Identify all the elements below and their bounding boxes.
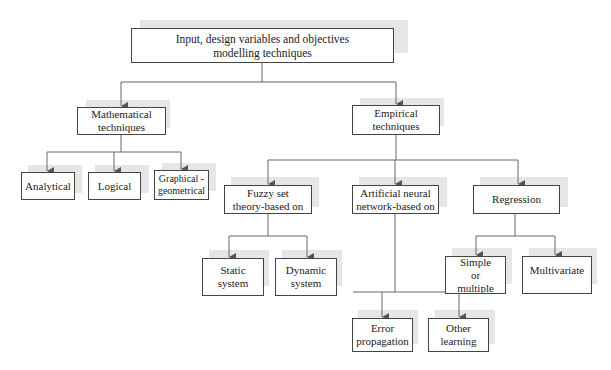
- node-static-system: Static system: [202, 258, 264, 296]
- node-dynamic-system: Dynamic system: [275, 258, 337, 296]
- node-mathematical-techniques: Mathematical techniques: [77, 107, 166, 135]
- node-simple-or-multiple: Simple or multiple: [445, 256, 506, 294]
- node-artificial-neural-network: Artificial neural network-based on: [352, 185, 439, 214]
- node-multivariate: Multivariate: [522, 256, 592, 294]
- node-graphical-geometrical: Graphical - geometrical: [154, 170, 209, 200]
- node-logical: Logical: [88, 172, 141, 200]
- node-regression: Regression: [473, 185, 560, 214]
- node-analytical: Analytical: [21, 172, 75, 200]
- node-empirical-techniques: Empirical techniques: [352, 105, 440, 135]
- node-fuzzy-set-theory: Fuzzy set theory-based on: [224, 185, 312, 214]
- node-error-propagation-learning: Error propagation learning: [352, 318, 413, 352]
- diagram-canvas: Input, design variables and objectives m…: [0, 0, 611, 370]
- node-other-learning-techniques: Other learning techniques: [428, 318, 489, 352]
- node-root: Input, design variables and objectives m…: [131, 28, 394, 63]
